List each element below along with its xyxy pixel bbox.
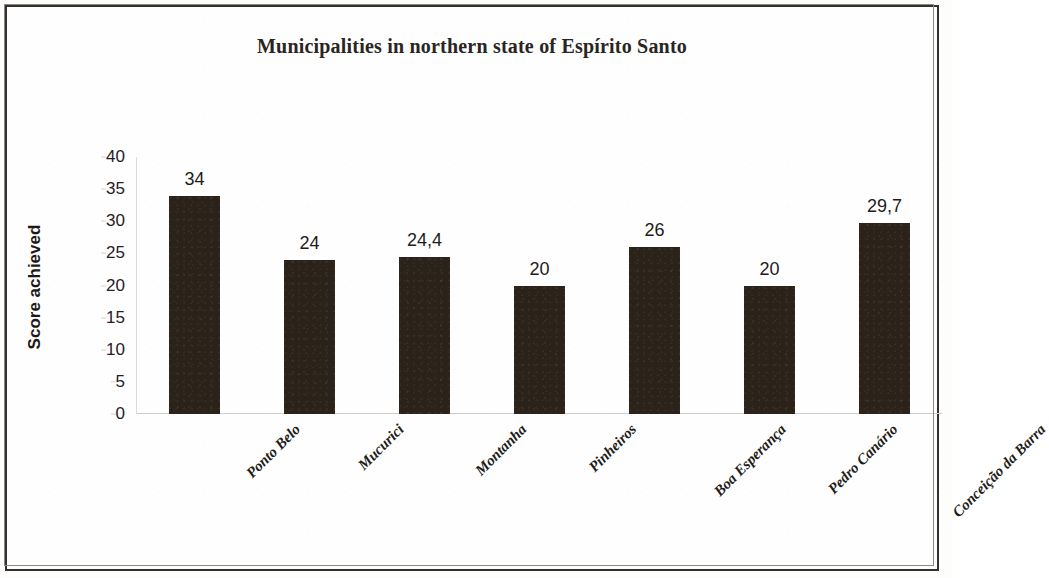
bar-group[interactable]: 24 bbox=[284, 157, 335, 414]
y-tick-label: 5 bbox=[116, 372, 125, 392]
bar[interactable] bbox=[284, 260, 335, 414]
y-tick-label: 20 bbox=[106, 276, 125, 296]
bar-value-label: 29,7 bbox=[835, 196, 934, 217]
y-axis-title: Score achieved bbox=[25, 167, 45, 407]
bar-group[interactable]: 20 bbox=[744, 157, 795, 414]
bar[interactable] bbox=[629, 247, 680, 414]
x-category-label: Montanha bbox=[472, 421, 530, 479]
bar-value-label: 24,4 bbox=[375, 230, 474, 251]
x-category-label: Boa Esperança bbox=[710, 421, 789, 500]
bar[interactable] bbox=[744, 286, 795, 415]
chart-title: Municipalities in northern state of Espí… bbox=[7, 35, 937, 58]
y-tick-mark bbox=[111, 414, 116, 415]
bar-group[interactable]: 34 bbox=[169, 157, 220, 414]
y-tick-label: 15 bbox=[106, 308, 125, 328]
bar-value-label: 34 bbox=[145, 169, 244, 190]
x-category-label: Ponto Belo bbox=[243, 421, 304, 482]
bar-value-label: 20 bbox=[490, 259, 589, 280]
y-tick-mark bbox=[101, 221, 106, 222]
bar[interactable] bbox=[859, 223, 910, 414]
x-category-label: Pedro Canário bbox=[824, 421, 901, 498]
bar[interactable] bbox=[514, 286, 565, 415]
bar[interactable] bbox=[399, 257, 450, 414]
bar-group[interactable]: 24,4 bbox=[399, 157, 450, 414]
plot-area: 0510152025303540 342424,420262029,7 bbox=[137, 157, 942, 414]
x-category-label: Pinheiros bbox=[585, 421, 639, 475]
bar-value-label: 24 bbox=[260, 233, 359, 254]
y-tick-mark bbox=[101, 253, 106, 254]
bar-group[interactable]: 29,7 bbox=[859, 157, 910, 414]
y-tick-label: 35 bbox=[106, 179, 125, 199]
y-tick-mark bbox=[111, 381, 116, 382]
y-tick-label: 0 bbox=[116, 404, 125, 424]
bar-group[interactable]: 20 bbox=[514, 157, 565, 414]
y-tick-label: 25 bbox=[106, 243, 125, 263]
y-tick-label: 40 bbox=[106, 147, 125, 167]
y-tick-mark bbox=[101, 285, 106, 286]
bar-value-label: 20 bbox=[720, 259, 819, 280]
y-tick-label: 10 bbox=[106, 340, 125, 360]
x-category-label: Mucurici bbox=[354, 421, 407, 474]
chart-frame-border: Municipalities in northern state of Espí… bbox=[5, 5, 939, 571]
x-category-label: Conceição da Barra bbox=[949, 421, 1049, 521]
bar[interactable] bbox=[169, 196, 220, 414]
y-tick-mark bbox=[101, 157, 106, 158]
y-tick-mark bbox=[101, 317, 106, 318]
y-tick-mark bbox=[101, 189, 106, 190]
bar-group[interactable]: 26 bbox=[629, 157, 680, 414]
y-tick-mark bbox=[101, 349, 106, 350]
y-tick-label: 30 bbox=[106, 211, 125, 231]
bar-value-label: 26 bbox=[605, 220, 704, 241]
